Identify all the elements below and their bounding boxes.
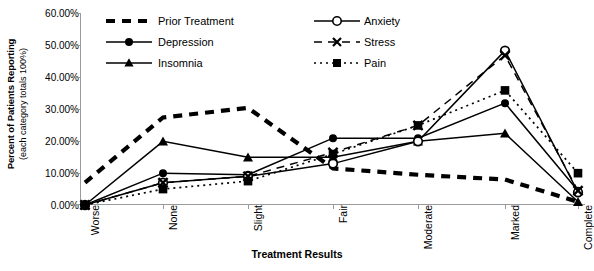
data-point-pain: [414, 121, 423, 130]
legend-label: Depression: [158, 33, 214, 51]
legend-label: Pain: [364, 54, 386, 72]
legend-swatch-stress: [312, 33, 362, 51]
legend-label: Insomnia: [158, 54, 203, 72]
x-tick-label: Moderate: [422, 205, 434, 271]
data-point-insomnia: [158, 137, 168, 146]
data-point-anxiety: [414, 137, 423, 146]
x-tick-label: Fair: [337, 205, 349, 271]
y-tick-label: 50.00%: [35, 41, 79, 51]
data-point-depression: [501, 99, 509, 107]
data-point-pain: [501, 86, 510, 95]
x-tick-label: Slight: [252, 205, 264, 271]
legend-swatch-anxiety: [312, 12, 362, 30]
x-tick-label: Worse: [89, 205, 101, 271]
y-tick-label: 10.00%: [35, 169, 79, 179]
data-point-anxiety: [329, 159, 338, 168]
y-axis-title: Percent of Patients Reporting (each cate…: [0, 0, 34, 225]
y-tick-label: 0.00%: [35, 201, 79, 211]
legend-label: Stress: [364, 33, 395, 51]
y-axis-title-sub: (each category totals 100%): [17, 8, 29, 200]
y-tick-label: 60.00%: [35, 9, 79, 19]
legend-swatch-depression: [104, 33, 154, 51]
data-point-pain: [329, 150, 338, 159]
x-axis-title: Treatment Results: [0, 248, 594, 260]
data-point-depression: [159, 169, 167, 177]
legend-label: Anxiety: [364, 12, 400, 30]
chart-legend: Prior Treatment Depression Insomnia Anxi…: [104, 12, 524, 72]
legend-label: Prior Treatment: [158, 12, 234, 30]
y-axis-tick-labels: 60.00% 50.00% 40.00% 30.00% 20.00% 10.00…: [32, 0, 79, 271]
data-point-depression: [329, 134, 337, 142]
legend-swatch-insomnia: [104, 54, 154, 72]
line-chart: Percent of Patients Reporting (each cate…: [0, 0, 594, 271]
legend-swatch-prior-treatment: [104, 12, 154, 30]
y-tick-label: 20.00%: [35, 137, 79, 147]
legend-swatch-pain: [312, 54, 362, 72]
data-point-pain: [574, 169, 583, 178]
x-axis-tick-labels: Worse None Slight Fair Moderate Marked C…: [80, 205, 585, 271]
y-axis-title-main: Percent of Patients Reporting: [5, 8, 17, 200]
y-tick-label: 40.00%: [35, 73, 79, 83]
y-tick-label: 30.00%: [35, 105, 79, 115]
x-tick-label: Complete: [582, 205, 594, 271]
data-point-pain: [159, 185, 168, 194]
x-tick-label: Marked: [509, 205, 521, 271]
x-tick-label: None: [167, 205, 179, 271]
data-point-pain: [244, 177, 253, 186]
